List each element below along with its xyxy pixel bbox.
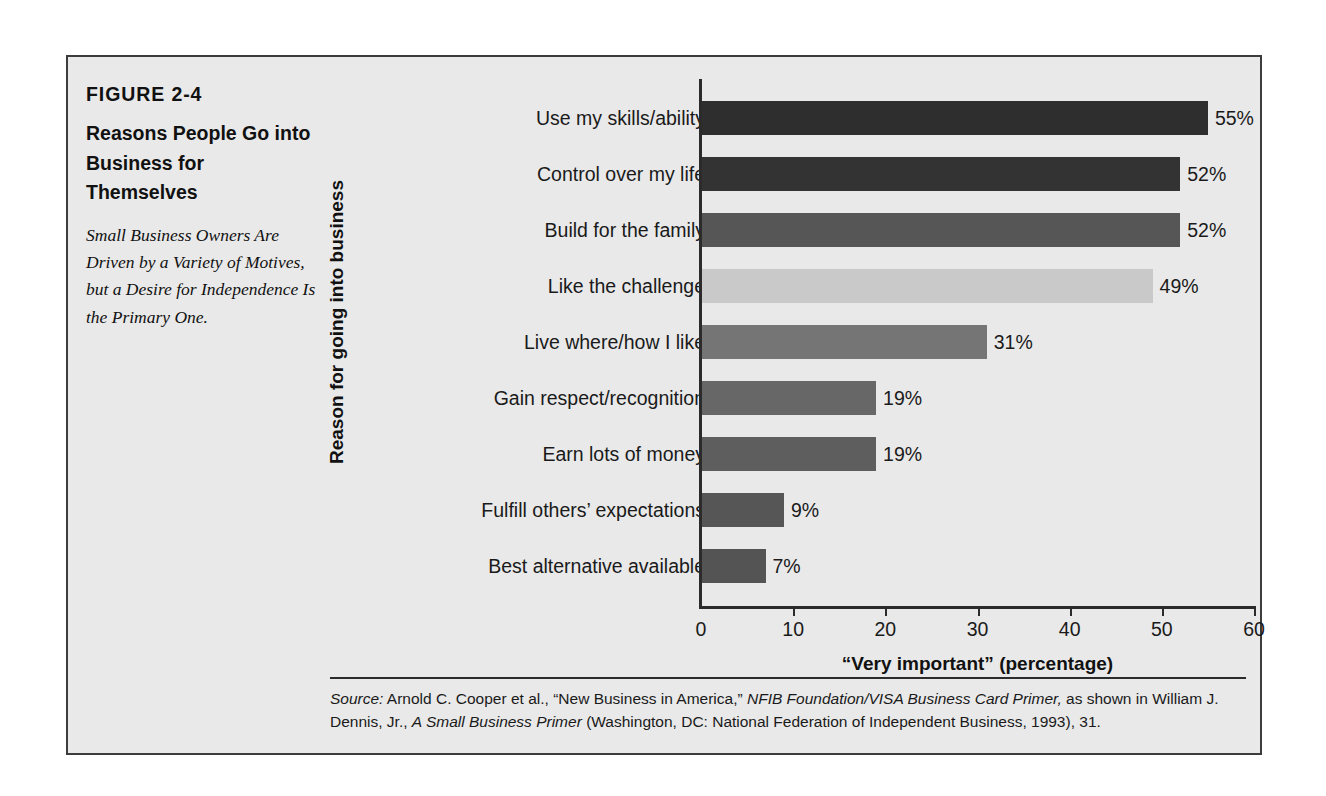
x-axis-tick (1162, 606, 1164, 616)
x-axis-title: “Very important” (percentage) (699, 653, 1256, 675)
bar-row: Like the challenge49% (370, 269, 1246, 303)
bar[interactable] (701, 269, 1153, 303)
bar-row: Gain respect/recognition19% (370, 381, 1246, 415)
source-divider (330, 677, 1246, 679)
bar-value-label: 52% (1187, 219, 1226, 242)
x-axis-tick-label: 40 (1059, 618, 1081, 641)
bar[interactable] (701, 157, 1180, 191)
x-axis-tick (793, 606, 795, 616)
x-axis-tick (1070, 606, 1072, 616)
caption-column: FIGURE 2-4 Reasons People Go into Busine… (86, 83, 316, 331)
figure-subtitle: Small Business Owners Are Driven by a Va… (86, 222, 316, 331)
source-text-1: Arnold C. Cooper et al., “New Business i… (383, 690, 747, 707)
x-axis-tick-label: 20 (874, 618, 896, 641)
y-axis-title: Reason for going into business (326, 102, 352, 542)
bar-value-label: 19% (883, 443, 922, 466)
bar-category-label: Build for the family (545, 219, 705, 242)
bar-row: Earn lots of money19% (370, 437, 1246, 471)
x-axis-tick-label: 60 (1243, 618, 1265, 641)
source-text-3: (Washington, DC: National Federation of … (582, 713, 1101, 730)
source-prefix: Source: (330, 690, 383, 707)
bar[interactable] (701, 101, 1208, 135)
y-axis-line (699, 79, 702, 609)
source-italic-1: NFIB Foundation/VISA Business Card Prime… (747, 690, 1062, 707)
source-note: Source: Arnold C. Cooper et al., “New Bu… (330, 687, 1260, 734)
figure-panel: FIGURE 2-4 Reasons People Go into Busine… (66, 55, 1262, 755)
bar-category-label: Gain respect/recognition (494, 387, 705, 410)
source-italic-2: A Small Business Primer (412, 713, 582, 730)
bar-value-label: 52% (1187, 163, 1226, 186)
bar-value-label: 7% (773, 555, 801, 578)
bar[interactable] (701, 493, 784, 527)
x-axis-tick-label: 50 (1151, 618, 1173, 641)
x-axis-tick-label: 30 (967, 618, 989, 641)
x-axis-tick-label: 0 (696, 618, 707, 641)
bar-row: Control over my life52% (370, 157, 1246, 191)
bar-value-label: 9% (791, 499, 819, 522)
bar-category-label: Control over my life (537, 163, 705, 186)
bar-value-label: 19% (883, 387, 922, 410)
bar-category-label: Like the challenge (548, 275, 705, 298)
figure-title: Reasons People Go into Business for Them… (86, 119, 316, 208)
figure-number: FIGURE 2-4 (86, 83, 316, 106)
bar[interactable] (701, 381, 876, 415)
x-axis-tick (1254, 606, 1256, 616)
bar[interactable] (701, 325, 987, 359)
bar-row: Fulfill others’ expectations9% (370, 493, 1246, 527)
bar[interactable] (701, 437, 876, 471)
bar-value-label: 55% (1215, 107, 1254, 130)
bar-category-label: Use my skills/ability (536, 107, 705, 130)
bar-category-label: Live where/how I like (524, 331, 705, 354)
bar-row: Best alternative available7% (370, 549, 1246, 583)
bar-row: Live where/how I like31% (370, 325, 1246, 359)
bar[interactable] (701, 213, 1180, 247)
bar-row: Build for the family52% (370, 213, 1246, 247)
x-axis-tick (978, 606, 980, 616)
bar-category-label: Best alternative available (488, 555, 705, 578)
x-axis-tick (885, 606, 887, 616)
bar-category-label: Fulfill others’ expectations (481, 499, 705, 522)
bar-category-label: Earn lots of money (542, 443, 705, 466)
bar-value-label: 31% (994, 331, 1033, 354)
bar-value-label: 49% (1160, 275, 1199, 298)
bar-chart: Reason for going into business Use my sk… (330, 87, 1246, 657)
bar[interactable] (701, 549, 766, 583)
bar-row: Use my skills/ability55% (370, 101, 1246, 135)
x-axis-tick-label: 10 (782, 618, 804, 641)
plot-area: Use my skills/ability55%Control over my … (370, 87, 1246, 657)
